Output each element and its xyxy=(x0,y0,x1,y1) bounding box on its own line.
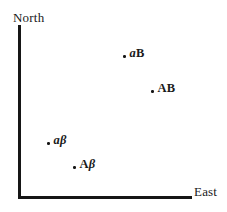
data-point-AB: AB xyxy=(151,82,175,95)
scatter-chart: North East aBABaβAβ xyxy=(0,0,227,212)
point-marker-icon xyxy=(151,90,154,93)
data-point-aB: aB xyxy=(123,47,145,60)
y-axis-title-north: North xyxy=(13,11,44,24)
point-marker-icon xyxy=(73,166,76,169)
point-label: Aβ xyxy=(80,158,96,171)
point-label: aβ xyxy=(54,134,67,147)
north-axis-line xyxy=(18,25,21,199)
x-axis-title-east: East xyxy=(194,185,217,198)
data-point-aβ: aβ xyxy=(47,134,67,147)
point-marker-icon xyxy=(123,55,126,58)
data-point-Aβ: Aβ xyxy=(73,158,95,171)
east-axis-line xyxy=(18,196,192,199)
point-marker-icon xyxy=(47,142,50,145)
point-label: AB xyxy=(158,82,176,95)
point-label: aB xyxy=(130,47,145,60)
